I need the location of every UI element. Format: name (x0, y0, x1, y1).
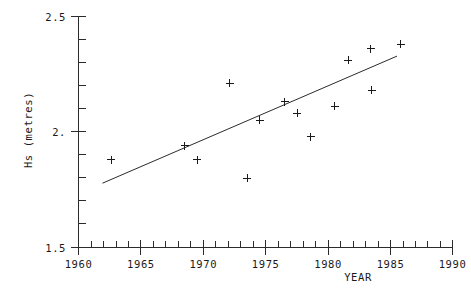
data-point (307, 133, 315, 141)
x-tick-label: 1975 (252, 258, 280, 270)
data-point (107, 156, 115, 164)
x-tick-label: 1960 (65, 258, 93, 270)
data-point (397, 40, 405, 48)
data-point (193, 156, 201, 164)
data-point (243, 174, 251, 182)
x-tick-label: 1965 (127, 258, 155, 270)
y-tick-label: 2.5 (45, 11, 66, 23)
y-tick-label: 1.5 (45, 242, 66, 254)
data-point (331, 102, 339, 110)
x-tick-label: 1970 (189, 258, 217, 270)
data-point (256, 116, 264, 124)
x-axis-title: YEAR (344, 271, 372, 283)
chart-canvas: 2.5 2. 1.5 1960 1965 1970 1975 1980 1985… (0, 0, 471, 298)
data-point (344, 56, 352, 64)
x-axis-tick-labels: 1960 1965 1970 1975 1980 1985 1990 (65, 258, 467, 270)
x-tick-label: 1980 (314, 258, 342, 270)
y-tick-label: 2. (52, 126, 66, 138)
data-point (281, 98, 289, 106)
data-point (367, 45, 375, 53)
x-tick-label: 1985 (377, 258, 405, 270)
data-point (226, 79, 234, 87)
data-point (368, 86, 376, 94)
x-tick-label: 1990 (439, 258, 467, 270)
axis-lines (78, 16, 453, 248)
data-point-markers (107, 40, 404, 182)
data-point (293, 109, 301, 117)
y-axis-tick-labels: 2.5 2. 1.5 (45, 11, 66, 254)
y-axis-title: Hs (metres) (22, 92, 34, 168)
scatter-chart: 2.5 2. 1.5 1960 1965 1970 1975 1980 1985… (0, 0, 471, 298)
trend-line (103, 56, 398, 183)
